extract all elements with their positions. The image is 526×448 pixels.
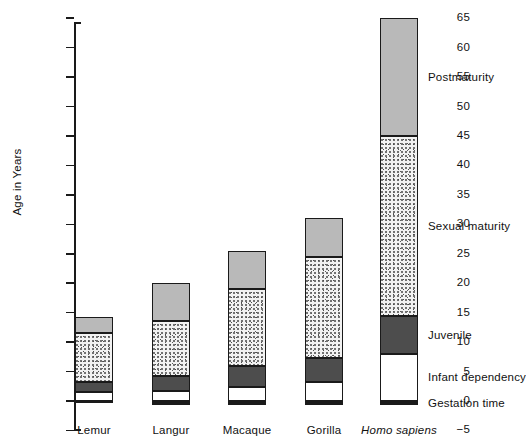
- segment-juvenile: [75, 382, 113, 393]
- y-tick-mark: [66, 253, 74, 255]
- bar-homo-sapiens: [380, 0, 418, 448]
- bar-lemur: [75, 0, 113, 448]
- segment-juvenile: [380, 316, 418, 354]
- segment-sexual: [380, 136, 418, 316]
- y-tick-label: 60: [412, 42, 470, 54]
- y-tick-mark: [66, 371, 74, 373]
- y-tick-mark: [66, 76, 74, 78]
- y-tick-label: 45: [412, 130, 470, 142]
- y-tick-mark: [66, 106, 74, 108]
- legend-label-gestation-time: Gestation time: [428, 397, 505, 409]
- segment-postmaturity: [228, 251, 266, 289]
- segment-postmaturity: [75, 317, 113, 333]
- y-tick-label: 20: [412, 277, 470, 289]
- segment-gestation: [228, 401, 266, 405]
- segment-sexual: [152, 321, 190, 375]
- bar-macaque: [228, 0, 266, 448]
- segment-juvenile: [305, 358, 343, 382]
- segment-gestation: [380, 401, 418, 405]
- segment-postmaturity: [305, 218, 343, 256]
- y-tick-label: 50: [412, 101, 470, 113]
- y-tick-mark: [66, 282, 74, 284]
- segment-gestation: [152, 401, 190, 405]
- segment-juvenile: [152, 376, 190, 391]
- segment-infant: [380, 354, 418, 401]
- segment-postmaturity: [152, 283, 190, 321]
- y-tick-mark: [66, 312, 74, 314]
- segment-sexual: [305, 257, 343, 358]
- segment-infant: [152, 391, 190, 401]
- y-tick-mark: [66, 17, 74, 19]
- bar-langur: [152, 0, 190, 448]
- category-label-homo-sapiens: Homo sapiens: [344, 424, 454, 436]
- legend-label-juvenile: Juvenile: [428, 329, 472, 341]
- y-tick-label: 40: [412, 159, 470, 171]
- legend-label-sexual-maturity: Sexual maturity: [428, 220, 510, 232]
- segment-sexual: [228, 289, 266, 366]
- segment-infant: [75, 392, 113, 401]
- y-tick-label: 65: [412, 12, 470, 24]
- y-tick-mark: [66, 400, 74, 402]
- segment-juvenile: [228, 366, 266, 388]
- segment-gestation: [305, 401, 343, 405]
- y-tick-label: 15: [412, 307, 470, 319]
- y-tick-label: 25: [412, 248, 470, 260]
- segment-gestation: [75, 401, 113, 403]
- segment-sexual: [75, 333, 113, 381]
- legend-label-infant-dependency: Infant dependency: [428, 371, 526, 383]
- y-tick-mark: [66, 194, 74, 196]
- y-tick-mark: [66, 165, 74, 167]
- segment-infant: [228, 387, 266, 401]
- bar-gorilla: [305, 0, 343, 448]
- y-axis-title: Age in Years: [11, 134, 23, 230]
- y-tick-mark: [66, 341, 74, 343]
- y-tick-mark: [66, 135, 74, 137]
- y-tick-label: 35: [412, 189, 470, 201]
- y-tick-mark: [66, 224, 74, 226]
- segment-infant: [305, 382, 343, 401]
- legend-label-postmaturity: Postmaturity: [428, 71, 494, 83]
- segment-postmaturity: [380, 18, 418, 136]
- y-tick-mark: [66, 47, 74, 49]
